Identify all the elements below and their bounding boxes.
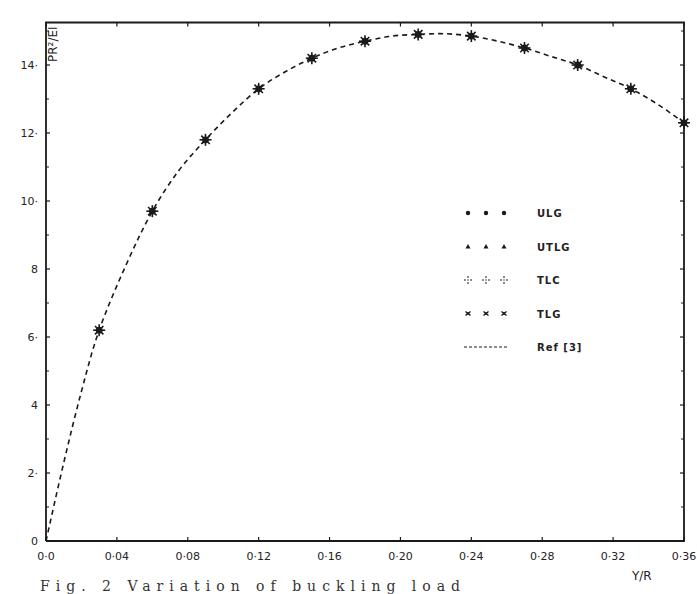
y-tick-label: 2· xyxy=(28,467,39,480)
dotted-cross-icon xyxy=(464,276,472,284)
legend-item: UTLG xyxy=(466,242,571,253)
dot-icon xyxy=(502,211,506,215)
dot-icon xyxy=(202,136,209,143)
y-axis-title: PR²/EI xyxy=(46,26,60,62)
y-tick-label: 4 xyxy=(31,399,38,412)
data-point-marker xyxy=(572,59,584,71)
axes-frame xyxy=(46,23,684,542)
dot-icon xyxy=(574,62,581,69)
y-tick-label: 14· xyxy=(21,59,39,72)
x-cross-icon xyxy=(484,312,489,316)
legend-label: Ref [3] xyxy=(537,342,582,353)
x-tick-label: 0·04 xyxy=(105,550,130,563)
dot-icon xyxy=(681,119,688,126)
data-point-marker xyxy=(200,134,212,146)
y-tick-label: 6· xyxy=(28,331,39,344)
x-cross-icon xyxy=(502,312,507,316)
y-tick-label: 0 xyxy=(31,535,38,548)
x-axis-ticks: 0·00·040·080·120·160·200·240·280·320·36 xyxy=(37,23,696,564)
dot-icon xyxy=(627,85,634,92)
data-point-marker xyxy=(93,324,105,336)
dot-icon xyxy=(255,85,262,92)
y-tick-label: 10· xyxy=(21,195,39,208)
x-tick-label: 0·36 xyxy=(672,550,697,563)
dot-icon xyxy=(149,208,156,215)
y-tick-label: 8 xyxy=(31,263,38,276)
ref-curve xyxy=(46,34,684,541)
x-tick-label: 0·24 xyxy=(459,550,484,563)
data-point-marker xyxy=(519,42,531,54)
x-tick-label: 0·32 xyxy=(601,550,626,563)
x-tick-label: 0·08 xyxy=(176,550,201,563)
x-axis-title: Y/R xyxy=(631,569,652,583)
data-point-marker xyxy=(146,205,158,217)
legend: ULGUTLGTLCTLGRef [3] xyxy=(464,208,582,353)
triangle-icon xyxy=(484,244,489,249)
y-axis-ticks: 02·46·810·12·14· xyxy=(21,31,685,548)
legend-item: TLC xyxy=(464,275,561,286)
legend-label: TLC xyxy=(537,275,561,286)
data-point-marker xyxy=(625,83,637,95)
dot-icon xyxy=(362,38,369,45)
legend-item: TLG xyxy=(466,309,562,320)
dotted-cross-icon xyxy=(500,276,508,284)
x-tick-label: 0·28 xyxy=(530,550,555,563)
data-points xyxy=(93,28,690,336)
triangle-icon xyxy=(502,244,507,249)
data-point-marker xyxy=(678,117,690,129)
x-tick-label: 0·16 xyxy=(317,550,342,563)
dot-icon xyxy=(96,327,103,334)
data-point-marker xyxy=(359,35,371,47)
triangle-icon xyxy=(466,244,471,249)
data-point-marker xyxy=(412,28,424,40)
plot-frame xyxy=(46,23,684,542)
data-point-marker xyxy=(306,52,318,64)
ref-3-dashed-line xyxy=(46,34,684,541)
dot-icon xyxy=(466,211,470,215)
data-point-marker xyxy=(253,83,265,95)
x-tick-label: 0·0 xyxy=(37,550,55,563)
legend-label: UTLG xyxy=(537,242,571,253)
y-tick-label: 12· xyxy=(21,127,39,140)
x-cross-icon xyxy=(466,312,471,316)
figure-caption: Fig. 2 Variation of buckling load xyxy=(40,578,466,594)
dot-icon xyxy=(308,55,315,62)
legend-label: ULG xyxy=(537,208,563,219)
dotted-cross-icon xyxy=(482,276,490,284)
legend-item: Ref [3] xyxy=(464,342,582,353)
data-point-marker xyxy=(465,30,477,42)
x-tick-label: 0·12 xyxy=(246,550,271,563)
legend-label: TLG xyxy=(537,309,561,320)
x-tick-label: 0·20 xyxy=(388,550,413,563)
dot-icon xyxy=(521,45,528,52)
dot-icon xyxy=(484,211,488,215)
legend-item: ULG xyxy=(466,208,563,219)
dot-icon xyxy=(415,31,422,38)
dot-icon xyxy=(468,33,475,40)
